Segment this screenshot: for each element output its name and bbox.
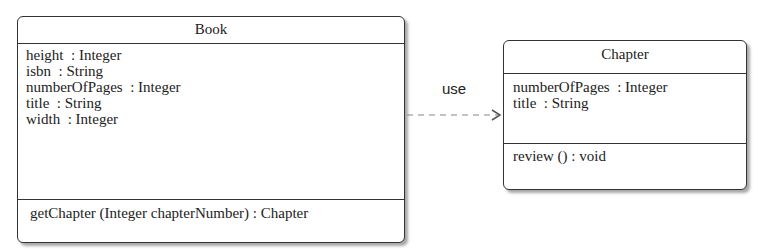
dependency-arrow[interactable] [0, 0, 758, 252]
relationship-label: use [442, 80, 466, 97]
